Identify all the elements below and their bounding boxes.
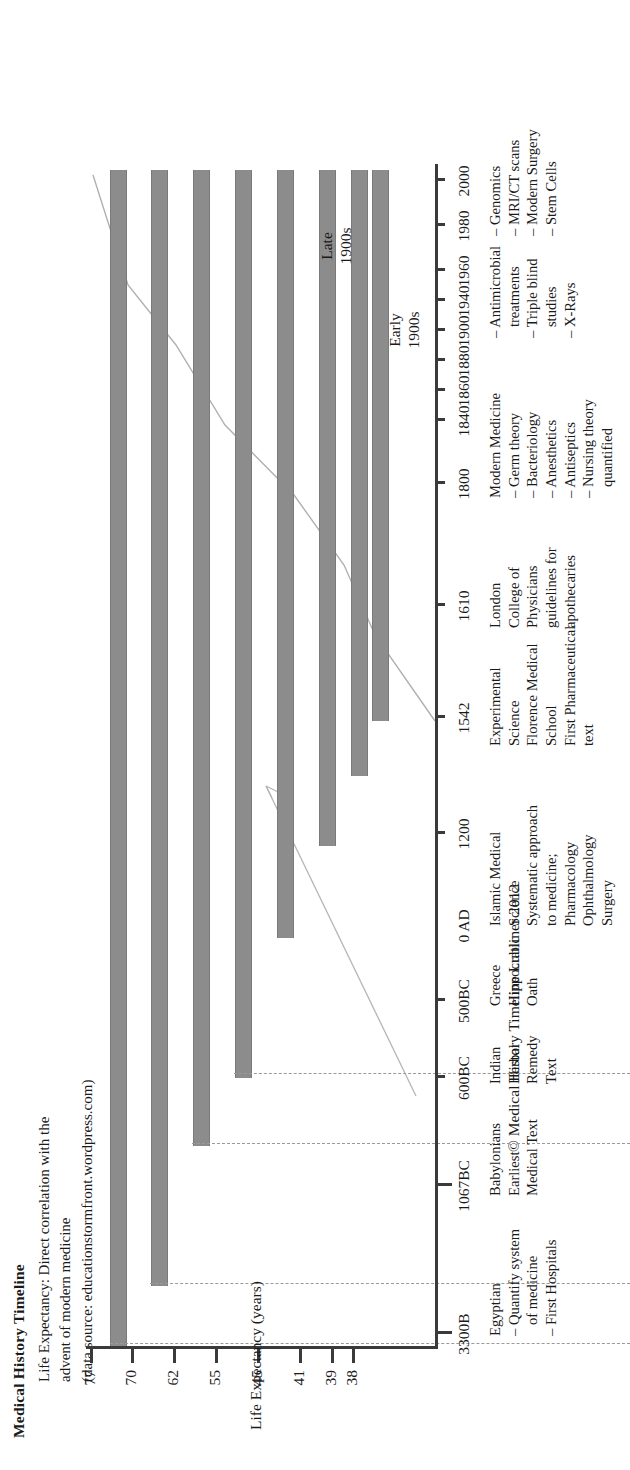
y-axis-tick (90, 1348, 93, 1363)
page-title: Medical History Timeline (10, 1264, 28, 1438)
event-description: Modern Medicine – Germ theory – Bacterio… (486, 393, 617, 498)
x-axis-tick (435, 358, 445, 361)
y-axis-tick-label: 70 (122, 1370, 140, 1410)
x-axis-tick-label: 1900 (455, 316, 473, 347)
x-axis-tick-label: 1860 (455, 376, 473, 407)
y-axis-tick-label: 41 (290, 1370, 308, 1410)
x-axis-tick-label: 2000 (455, 166, 473, 197)
bar (110, 170, 127, 1346)
event-description: Islamic Medical Science Systematic appro… (486, 805, 617, 926)
x-axis-tick (435, 481, 445, 484)
x-axis-tick-label: 1067BC (455, 1160, 473, 1212)
bar (319, 170, 336, 846)
x-axis-tick-label: 1840 (455, 406, 473, 437)
x-axis-tick (435, 1331, 452, 1334)
event-description: London College of Physicians guidelines … (486, 547, 579, 628)
era-callout: Late 1900s (318, 227, 355, 264)
event-description: – Genomics – MRI/CT scans – Modern Surge… (486, 129, 561, 236)
bar (193, 170, 210, 1146)
x-axis-tick-label: 1980 (455, 211, 473, 242)
x-axis-tick-label: 1800 (455, 469, 473, 500)
x-axis-line (435, 164, 438, 1346)
event-description: Babylonians Earliest Medical Text (486, 1119, 542, 1196)
y-axis-tick-label: 77 (81, 1370, 99, 1410)
bar (372, 170, 389, 721)
y-axis-tick-label: 62 (164, 1370, 182, 1410)
x-axis-tick-label: 1542 (455, 703, 473, 734)
y-axis-tick (352, 1348, 355, 1363)
x-axis-tick-label: 1880 (455, 346, 473, 377)
x-axis-tick-label: 0 AD (455, 909, 473, 942)
x-axis-tick (435, 1075, 445, 1078)
bar (277, 170, 294, 938)
y-axis-tick-label: 55 (206, 1370, 224, 1410)
x-axis-tick (435, 603, 445, 606)
x-axis-tick (435, 268, 445, 271)
bar (235, 170, 252, 1078)
x-axis-tick-label: 3300B (455, 1313, 473, 1354)
x-axis-tick-label: 1200 (455, 819, 473, 850)
leader-line (192, 1143, 630, 1144)
x-axis-tick-label: 600BC (455, 1056, 473, 1100)
x-axis-tick (435, 178, 445, 181)
event-description: Greece Hippocratic Oath (486, 937, 542, 1006)
x-axis-tick (435, 388, 445, 391)
leader-line (110, 1343, 630, 1344)
subtitle-line-1: Life Expectancy: Direct correlation with… (34, 1080, 55, 1382)
event-description: – Antimicrobial treatments – Triple blin… (486, 246, 579, 338)
figure-canvas: Medical History Timeline Life Expectancy… (0, 0, 630, 1470)
event-description: Indian Herbal Remedy Text (486, 1035, 561, 1084)
x-axis-tick (435, 1183, 452, 1186)
x-axis-tick (435, 328, 445, 331)
x-axis-tick-label: 1960 (455, 256, 473, 287)
x-axis-tick (435, 831, 445, 834)
y-axis-tick-label: 38 (343, 1370, 361, 1410)
x-axis-tick (435, 418, 445, 421)
medical-history-timeline-figure: Medical History Timeline Life Expectancy… (0, 0, 630, 1470)
bar (151, 170, 168, 1286)
x-axis-tick (435, 298, 445, 301)
x-axis-tick-label: 1610 (455, 591, 473, 622)
y-axis-tick (131, 1348, 134, 1363)
y-axis-tick (173, 1348, 176, 1363)
y-axis-tick (331, 1348, 334, 1363)
x-axis-tick (435, 715, 445, 718)
x-axis-tick-label: 500BC (455, 979, 473, 1023)
event-description: Experimental Science Florence Medical Sc… (486, 626, 598, 746)
y-axis-tick-label: 39 (322, 1370, 340, 1410)
era-callout: Early 1900s (386, 311, 423, 348)
y-axis-tick (299, 1348, 302, 1363)
y-axis-tick (215, 1348, 218, 1363)
x-axis-tick (435, 223, 445, 226)
leader-line (234, 1073, 630, 1074)
x-axis-tick-label: 1940 (455, 286, 473, 317)
event-description: Egyptian – Quantify system of medicine –… (486, 1229, 561, 1336)
x-axis-tick (435, 998, 445, 1001)
subtitle-line-2: advent of modern medicine (55, 1080, 76, 1382)
